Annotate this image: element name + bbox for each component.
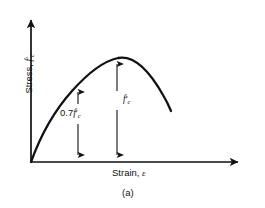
- annotation-0p7fc: 0.7f′c: [60, 108, 81, 120]
- annotation-fc: f′c: [123, 94, 130, 106]
- annotation-0p7fc-number: 0.7: [60, 107, 73, 118]
- annotation-fc-subscript: c: [127, 98, 130, 105]
- x-axis-label: Strain, ε: [112, 168, 146, 178]
- x-axis-label-prefix: Strain,: [112, 167, 142, 178]
- figure-caption: (a): [122, 188, 134, 198]
- y-axis-label-prime: ′: [23, 57, 34, 59]
- stress-strain-curve: [31, 58, 171, 162]
- y-axis-label-subscript: c: [28, 54, 35, 57]
- y-axis-label-symbol: f: [24, 59, 34, 62]
- annotation-0p7fc-subscript: c: [78, 112, 81, 119]
- y-axis-label: Stress, f′c: [24, 39, 36, 109]
- figure-container: Stress, f′c Strain, ε 0.7f′c f′c (a): [0, 0, 265, 208]
- x-axis-label-symbol: ε: [142, 168, 146, 178]
- y-axis-label-prefix: Stress,: [23, 61, 34, 93]
